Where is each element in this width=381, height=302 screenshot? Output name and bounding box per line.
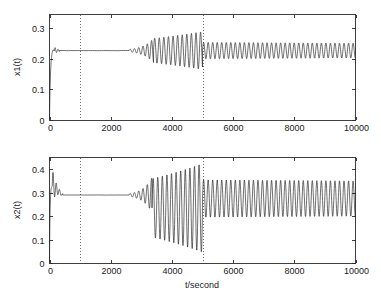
bottom-panel-x-tick-labels: 0200040006000800010000 (48, 266, 369, 276)
x2-yticklabel-3: 0.3 (32, 189, 45, 199)
x2-yticklabel-1: 0.1 (32, 236, 45, 246)
x1-xticklabel-5: 10000 (344, 123, 369, 133)
y-axis-label-x1: x1(t) (12, 58, 22, 76)
top-panel-y-tick-labels: 00.10.20.3 (32, 24, 45, 126)
x2-xticklabel-0: 0 (48, 266, 53, 276)
y-axis-label-x2: x2(t) (12, 201, 22, 219)
panel-x2: 0200040006000800010000 00.10.20.30.4 x2(… (12, 158, 369, 291)
x1-xticklabel-2: 4000 (162, 123, 182, 133)
series-x1-line (50, 32, 356, 120)
series-x2-line (50, 165, 356, 263)
x2-xticklabel-2: 4000 (162, 266, 182, 276)
figure-canvas: 0200040006000800010000 00.10.20.3 x1(t) … (0, 0, 381, 302)
x1-yticklabel-3: 0.3 (32, 24, 45, 34)
x-axis-label: t/second (185, 280, 219, 290)
top-panel-ticks (50, 15, 357, 121)
x2-xticklabel-1: 2000 (101, 266, 121, 276)
bottom-panel-y-tick-labels: 00.10.20.30.4 (32, 165, 45, 269)
x2-xticklabel-3: 6000 (223, 266, 243, 276)
x2-xticklabel-4: 8000 (284, 266, 304, 276)
time-series-plot: 0200040006000800010000 00.10.20.3 x1(t) … (0, 0, 381, 302)
x1-yticklabel-0: 0 (39, 116, 44, 126)
x2-xticklabel-5: 10000 (344, 266, 369, 276)
x1-xticklabel-0: 0 (48, 123, 53, 133)
x1-yticklabel-1: 0.1 (32, 85, 45, 95)
panel-x1: 0200040006000800010000 00.10.20.3 x1(t) (12, 15, 369, 133)
x1-xticklabel-4: 8000 (284, 123, 304, 133)
x1-xticklabel-3: 6000 (223, 123, 243, 133)
x2-yticklabel-2: 0.2 (32, 212, 45, 222)
x1-xticklabel-1: 2000 (101, 123, 121, 133)
x2-yticklabel-0: 0 (39, 259, 44, 269)
x2-yticklabel-4: 0.4 (32, 165, 45, 175)
top-panel-reference-lines (81, 15, 204, 121)
x1-yticklabel-2: 0.2 (32, 55, 45, 65)
top-panel-x-tick-labels: 0200040006000800010000 (48, 123, 369, 133)
